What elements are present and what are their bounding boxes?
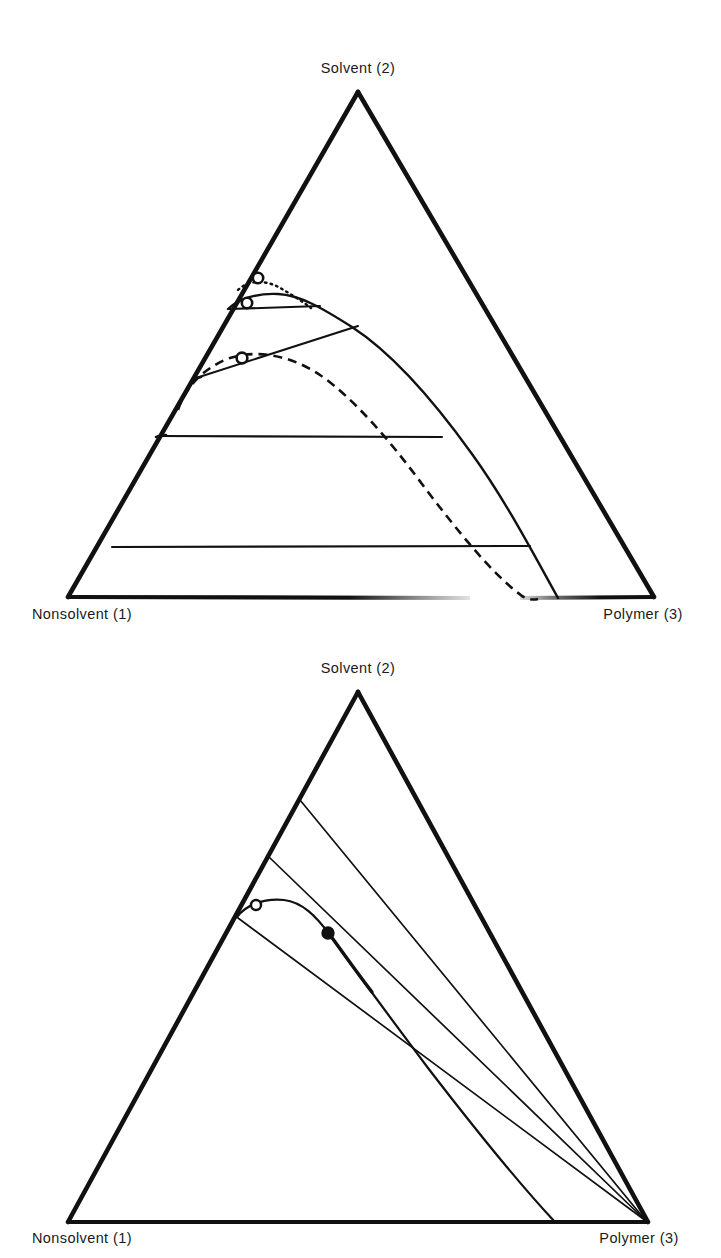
- bottom-panel-apex-label: Solvent (2): [321, 660, 396, 676]
- bottom-panel-bottom-right-label: Polymer (3): [599, 1230, 678, 1246]
- top-panel: [68, 92, 654, 600]
- critical-point-open-circle: [251, 900, 261, 910]
- top-panel-bottom-left-label: Nonsolvent (1): [32, 606, 132, 622]
- bottom-panel: [68, 692, 648, 1222]
- top-panel-bottom-right-label: Polymer (3): [603, 606, 682, 622]
- figure-root: Solvent (2) Nonsolvent (1) Polymer (3) S…: [0, 0, 721, 1258]
- binodal-curve-emphasis-segment: [330, 935, 372, 992]
- top-triangle-bottom-edge: [68, 597, 470, 598]
- bottom-triangle-right-edge: [358, 692, 648, 1222]
- top-triangle-left-edge: [68, 92, 358, 597]
- critical-point-open-circle: [253, 273, 263, 283]
- top-triangle-bottom-edge-tail: [520, 597, 654, 598]
- ternary-diagram-canvas: [0, 0, 721, 1258]
- bottom-panel-bottom-left-label: Nonsolvent (1): [32, 1230, 132, 1246]
- critical-point-open-circle: [242, 298, 252, 308]
- bottom-tie-lines: [238, 800, 646, 1221]
- top-triangle-right-edge: [358, 92, 654, 597]
- binodal-curve-solid: [237, 900, 555, 1222]
- phase-point-filled-circle: [322, 927, 334, 939]
- bottom-triangle-left-edge: [68, 692, 358, 1222]
- top-tie-lines: [112, 306, 530, 547]
- tie-line: [112, 546, 530, 547]
- top-panel-apex-label: Solvent (2): [321, 60, 396, 76]
- critical-point-open-circle: [237, 353, 248, 364]
- tie-line: [238, 918, 646, 1221]
- tie-line: [158, 436, 442, 437]
- tie-line: [300, 800, 646, 1221]
- binodal-curve-dashed: [178, 354, 538, 599]
- tie-line: [269, 857, 646, 1221]
